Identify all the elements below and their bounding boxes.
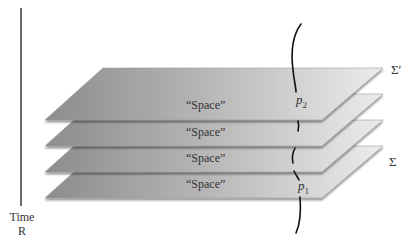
spacetime-foliation-diagram bbox=[0, 0, 409, 247]
space-label-3: “Space” bbox=[186, 152, 225, 164]
sigma-label: Σ bbox=[389, 155, 397, 168]
space-label-2: “Space” bbox=[186, 126, 225, 138]
point-p2-label: p2 bbox=[296, 93, 307, 110]
reals-label: R bbox=[6, 225, 38, 237]
p2-sub: 2 bbox=[303, 100, 308, 110]
sigma-prime-label: Σ′ bbox=[391, 63, 401, 76]
time-axis-label: Time R bbox=[6, 211, 38, 237]
p1-sub: 1 bbox=[305, 186, 310, 196]
time-label: Time bbox=[6, 211, 38, 223]
space-label-1: “Space” bbox=[186, 99, 225, 111]
space-label-4: “Space” bbox=[186, 178, 225, 190]
point-p1-label: p1 bbox=[298, 179, 309, 196]
